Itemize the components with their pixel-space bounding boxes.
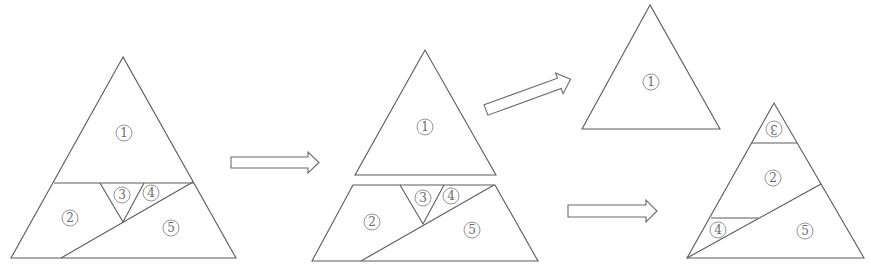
svg-text:3: 3 — [419, 191, 427, 205]
svg-text:4: 4 — [714, 223, 722, 237]
svg-text:4: 4 — [147, 186, 155, 200]
label-p2-5: 5 — [464, 222, 480, 238]
label-p4-2: 2 — [765, 170, 781, 186]
arrow-right-1-icon — [231, 152, 319, 173]
separated-pieces — [312, 50, 538, 261]
label-p2-3: 3 — [415, 190, 431, 206]
label-p1-3: 3 — [114, 187, 130, 203]
arrow-up-right-icon — [482, 69, 574, 120]
outer-triangle — [11, 57, 236, 258]
label-p1-2: 2 — [62, 210, 78, 226]
svg-text:5: 5 — [801, 224, 809, 238]
dissection-diagram: 1 2 3 4 5 1 2 3 4 5 1 3 — [0, 0, 871, 272]
svg-text:2: 2 — [66, 211, 74, 225]
label-p3-1: 1 — [643, 74, 659, 90]
diagonal-cut — [687, 184, 821, 258]
svg-text:3: 3 — [770, 122, 778, 136]
svg-text:1: 1 — [120, 126, 128, 140]
svg-text:3: 3 — [118, 188, 126, 202]
piece-1-triangle — [582, 5, 720, 129]
piece-1-triangle — [355, 50, 496, 175]
label-p2-4: 4 — [443, 188, 459, 204]
svg-text:5: 5 — [468, 223, 476, 237]
svg-text:1: 1 — [647, 75, 655, 89]
label-p1-5: 5 — [163, 220, 179, 236]
label-p4-3-rotated: 3 — [766, 121, 782, 137]
svg-text:1: 1 — [421, 120, 429, 134]
label-p1-4: 4 — [143, 185, 159, 201]
original-triangle — [11, 57, 236, 258]
result-triangle-top — [582, 5, 720, 129]
label-p4-5: 5 — [797, 223, 813, 239]
svg-text:2: 2 — [769, 171, 777, 185]
label-p2-2: 2 — [364, 214, 380, 230]
svg-text:4: 4 — [447, 189, 455, 203]
svg-text:2: 2 — [368, 215, 376, 229]
label-p1-1: 1 — [116, 125, 132, 141]
arrow-right-2-icon — [568, 200, 657, 222]
label-p4-4: 4 — [710, 222, 726, 238]
label-p2-1: 1 — [417, 119, 433, 135]
svg-text:5: 5 — [167, 221, 175, 235]
